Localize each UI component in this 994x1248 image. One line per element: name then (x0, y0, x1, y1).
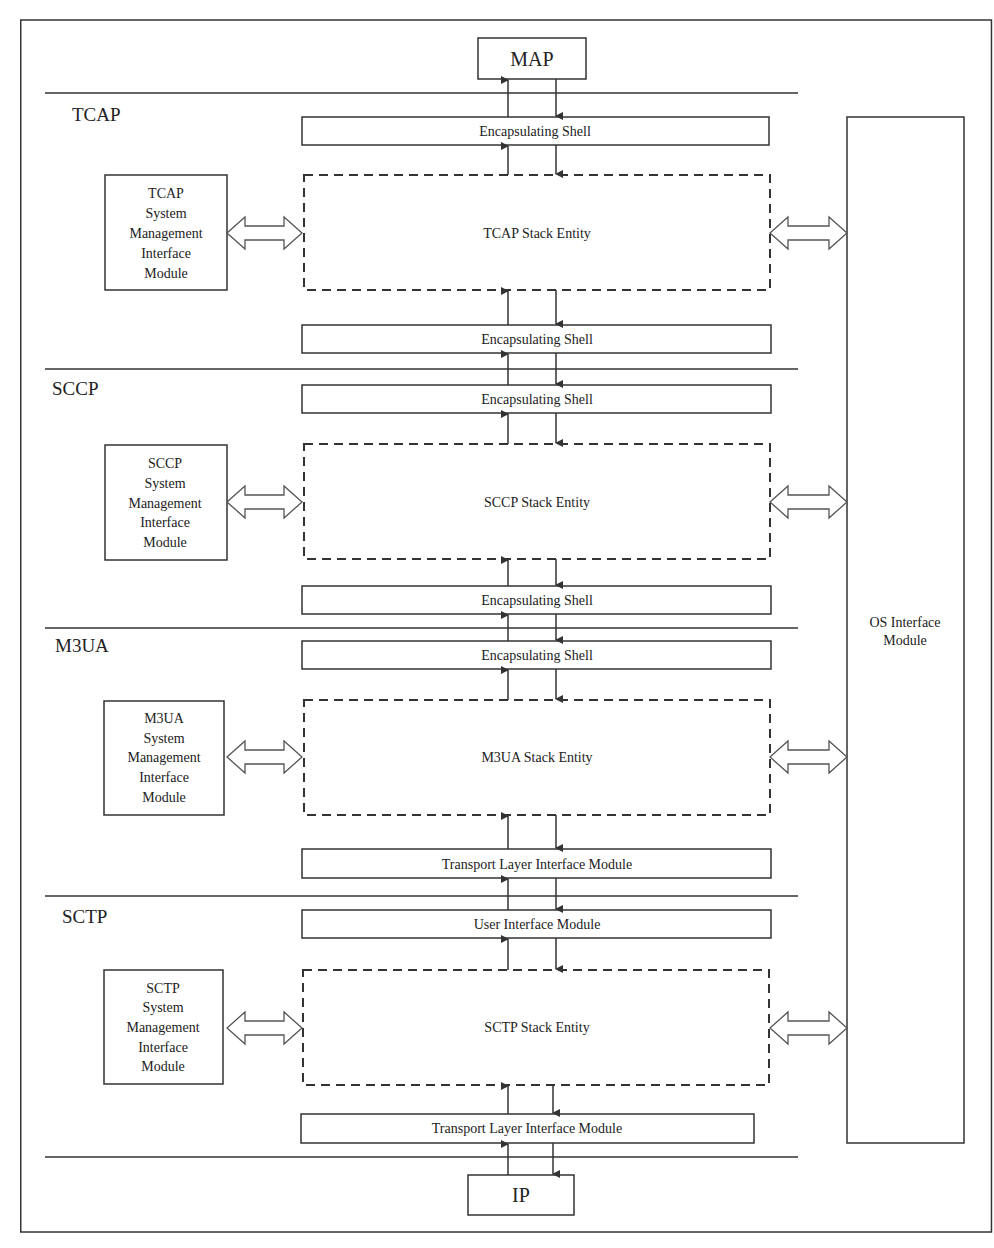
sccp-mgmt-label-1: SCCP (148, 456, 182, 471)
os-interface-module: OS Interface Module (847, 117, 964, 1143)
sccp-lower-shell-label: Encapsulating Shell (481, 593, 593, 608)
map-label: MAP (510, 48, 553, 70)
double-arrow-sccp-mgmt-to-entity (227, 486, 302, 518)
sctp-mgmt-label-1: SCTP (146, 981, 180, 996)
double-arrow-tcap-entity-to-os (770, 217, 847, 249)
tcap-upper-shell-label: Encapsulating Shell (479, 124, 591, 139)
layer-tcap: TCAP Encapsulating Shell TCAP Stack Enti… (72, 104, 771, 353)
sccp-mgmt-label-5: Module (143, 535, 187, 550)
double-arrow-m3ua-mgmt-to-entity (227, 741, 302, 773)
os-module-label-line1: OS Interface (869, 615, 940, 630)
double-arrow-tcap-mgmt-to-entity (227, 217, 302, 249)
sctp-mgmt-label-4: Interface (138, 1040, 188, 1055)
tcap-mgmt-label-5: Module (144, 266, 188, 281)
m3ua-upper-shell-label: Encapsulating Shell (481, 648, 593, 663)
sccp-mgmt-label-4: Interface (140, 515, 190, 530)
sctp-mgmt-label-3: Management (126, 1020, 199, 1035)
m3ua-mgmt-label-2: System (143, 731, 184, 746)
layer-title-tcap: TCAP (72, 104, 121, 125)
m3ua-mgmt-label-5: Module (142, 790, 186, 805)
map-node: MAP (478, 38, 586, 79)
sctp-stack-entity-label: SCTP Stack Entity (484, 1020, 589, 1035)
tcap-mgmt-label-3: Management (129, 226, 202, 241)
layer-sccp: SCCP Encapsulating Shell SCCP Stack Enti… (52, 378, 771, 614)
m3ua-transport-interface-label: Transport Layer Interface Module (442, 857, 632, 872)
m3ua-mgmt-label-1: M3UA (144, 711, 185, 726)
double-arrow-sctp-mgmt-to-entity (227, 1012, 302, 1044)
tcap-stack-entity-label: TCAP Stack Entity (483, 226, 591, 241)
double-arrow-m3ua-entity-to-os (770, 741, 847, 773)
layer-title-m3ua: M3UA (55, 635, 109, 656)
sccp-upper-shell-label: Encapsulating Shell (481, 392, 593, 407)
tcap-mgmt-label-2: System (145, 206, 186, 221)
double-arrow-sctp-entity-to-os (770, 1012, 847, 1044)
tcap-mgmt-label-1: TCAP (148, 186, 184, 201)
ip-label: IP (512, 1184, 530, 1206)
layer-sctp: SCTP User Interface Module SCTP Stack En… (62, 906, 771, 1143)
sctp-mgmt-label-5: Module (141, 1059, 185, 1074)
tcap-mgmt-label-4: Interface (141, 246, 191, 261)
sccp-stack-entity-label: SCCP Stack Entity (484, 495, 590, 510)
sctp-transport-interface-label: Transport Layer Interface Module (432, 1121, 622, 1136)
sctp-mgmt-label-2: System (142, 1000, 183, 1015)
ip-node: IP (468, 1175, 574, 1215)
tcap-lower-shell-label: Encapsulating Shell (481, 332, 593, 347)
sccp-mgmt-label-2: System (144, 476, 185, 491)
protocol-stack-diagram: MAP IP OS Interface Module TCAP Encapsul… (0, 0, 994, 1248)
m3ua-mgmt-label-4: Interface (139, 770, 189, 785)
sccp-mgmt-label-3: Management (128, 496, 201, 511)
layer-title-sctp: SCTP (62, 906, 107, 927)
sctp-user-interface-label: User Interface Module (474, 917, 601, 932)
os-module-label-line2: Module (883, 633, 927, 648)
m3ua-stack-entity-label: M3UA Stack Entity (481, 750, 592, 765)
layer-m3ua: M3UA Encapsulating Shell M3UA Stack Enti… (55, 635, 771, 878)
double-arrow-sccp-entity-to-os (770, 486, 847, 518)
m3ua-mgmt-label-3: Management (127, 750, 200, 765)
layer-title-sccp: SCCP (52, 378, 98, 399)
